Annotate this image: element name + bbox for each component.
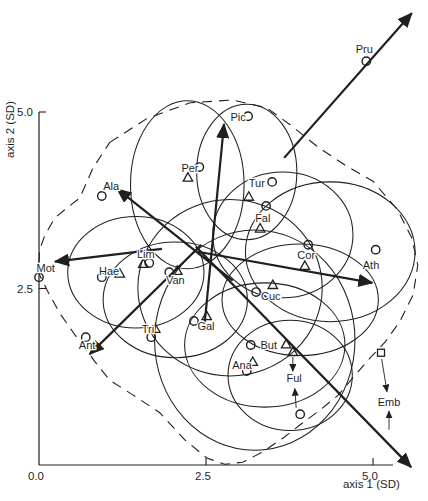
species-label-but: But <box>261 339 278 351</box>
marker-triangle-tur <box>244 192 254 201</box>
species-label-per: Per <box>181 162 198 174</box>
species-label-ath: Ath <box>363 259 380 271</box>
group-ellipse-6 <box>103 242 247 358</box>
species-label-gal: Gal <box>197 320 214 332</box>
vector-pic <box>204 124 224 330</box>
marker-circle-tur <box>268 178 276 186</box>
species-label-pic: Pic <box>230 111 246 123</box>
species-label-ful: Ful <box>287 372 302 384</box>
vector-right <box>198 252 372 283</box>
marker-triangle-per <box>183 173 193 182</box>
marker-square-emb <box>378 349 385 356</box>
pointer-ful-down <box>295 389 296 408</box>
species-label-pru: Pru <box>356 43 373 55</box>
marker-triangle-cuc <box>268 280 278 289</box>
group-ellipse-5 <box>68 216 204 328</box>
species-label-cor: Cor <box>297 249 315 261</box>
species-label-ant: Ant <box>79 339 96 351</box>
marker-circle-ath <box>371 245 379 253</box>
vector-pru <box>284 13 412 158</box>
species-label-mot: Mot <box>37 262 55 274</box>
marker-triangle-gal <box>202 311 212 320</box>
pointer-emb-up <box>382 359 387 391</box>
marker-triangle-fal <box>255 224 265 233</box>
ordination-plot: 2.55.00.02.55.0axis 2 (SD)axis 1 (SD)Pru… <box>0 0 428 501</box>
marker-circle-ful <box>296 410 304 418</box>
species-label-fal: Fal <box>255 212 270 224</box>
species-label-emb: Emb <box>378 396 401 408</box>
x-axis-title: axis 1 (SD) <box>343 478 400 490</box>
y-tick-label-5.0: 5.0 <box>17 106 33 118</box>
species-label-tur: Tur <box>249 177 265 189</box>
x-tick-label-0.0: 0.0 <box>28 470 44 482</box>
marker-circle-ala <box>98 192 106 200</box>
x-tick-label-2.5: 2.5 <box>195 470 211 482</box>
species-label-hae: Hae <box>99 265 119 277</box>
species-label-cuc: Cuc <box>261 290 281 302</box>
y-axis-title: axis 2 (SD) <box>4 101 16 158</box>
marker-triangle-cor <box>300 261 310 270</box>
species-label-van: Van <box>166 274 185 286</box>
vector-diagonal <box>196 247 411 467</box>
species-label-ala: Ala <box>103 180 120 192</box>
species-label-lim: Lim <box>137 248 155 260</box>
y-tick-label-2.5: 2.5 <box>17 283 33 295</box>
boundary-dashed-outline <box>38 100 418 464</box>
ordination-figure: 2.55.00.02.55.0axis 2 (SD)axis 1 (SD)Pru… <box>0 0 428 501</box>
species-label-ana: Ana <box>232 359 252 371</box>
species-label-tri: Tri <box>142 323 154 335</box>
